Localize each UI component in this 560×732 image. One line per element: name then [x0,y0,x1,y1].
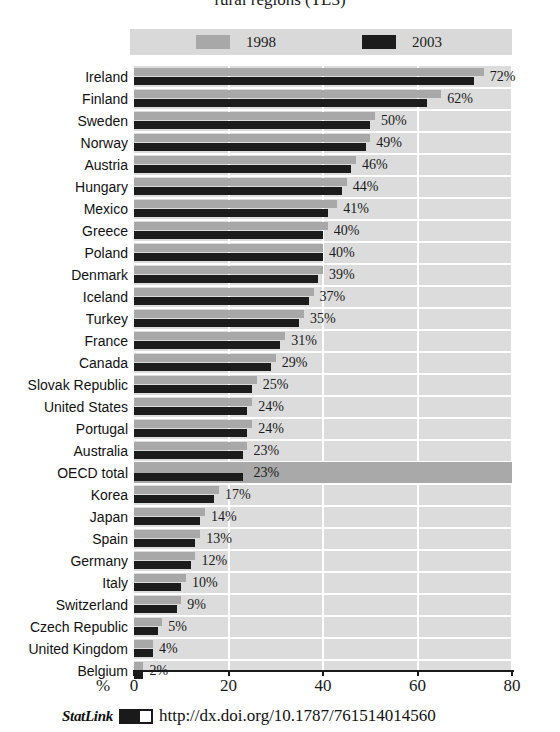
category-axis-labels: IrelandFinlandSwedenNorwayAustriaHungary… [0,66,134,670]
statlink-label: StatLink [62,708,113,725]
bar-group-row: 24% [134,396,512,418]
bar-group-row: 31% [134,330,512,352]
bar-1998 [134,618,162,626]
legend-swatch-2003-icon [362,35,396,49]
bar-2003 [134,429,247,437]
category-label: United States [0,399,128,415]
bar-1998 [134,508,205,516]
category-label: Iceland [0,289,128,305]
bar-value-label: 46% [362,157,388,173]
bar-value-label: 5% [168,619,187,635]
bar-1998 [134,354,276,362]
bar-value-label: 13% [206,531,232,547]
category-label: Finland [0,91,128,107]
bar-group-row: 12% [134,550,512,572]
statlink-url[interactable]: http://dx.doi.org/10.1787/761514014560 [159,706,436,726]
bar-2003 [134,539,195,547]
category-label: Poland [0,245,128,261]
bar-group-row: 17% [134,484,512,506]
bar-1998 [134,244,323,252]
category-label: OECD total [0,465,128,481]
bar-value-label: 25% [263,377,289,393]
legend-label-2003: 2003 [412,34,442,51]
chart-plot-area: 72%62%50%49%46%44%41%40%40%39%37%35%31%2… [134,66,512,670]
bar-value-label: 9% [187,597,206,613]
x-axis-percent-symbol: % [96,676,110,696]
bar-value-label: 31% [291,333,317,349]
bar-group-row: 37% [134,286,512,308]
category-label: Australia [0,443,128,459]
bar-1998 [134,376,257,384]
bar-1998 [134,134,370,142]
bar-group-row: 62% [134,88,512,110]
category-label: Hungary [0,179,128,195]
bar-group-row: 25% [134,374,512,396]
bar-1998 [134,640,153,648]
bar-group-row: 35% [134,308,512,330]
bar-group-row: 9% [134,594,512,616]
x-axis-tick-label: 60 [398,676,438,696]
bar-1998 [134,662,143,670]
x-axis-tick-label: 80 [492,676,532,696]
bar-1998 [134,310,304,318]
statlink-icon [119,709,153,724]
bar-1998 [134,178,347,186]
bar-2003 [134,121,370,129]
category-label: Sweden [0,113,128,129]
bar-2003 [134,451,243,459]
category-label: Denmark [0,267,128,283]
category-label: Korea [0,487,128,503]
category-label: Czech Republic [0,619,128,635]
category-label: Slovak Republic [0,377,128,393]
bar-2003 [134,209,328,217]
bar-2003 [134,385,252,393]
category-label: United Kingdom [0,641,128,657]
bar-group-row: 49% [134,132,512,154]
legend-item-1998: 1998 [196,29,276,55]
bar-1998 [134,288,314,296]
bar-2003 [134,143,366,151]
bar-value-label: 72% [490,69,516,85]
bar-value-label: 40% [334,223,360,239]
bar-2003 [134,341,280,349]
bar-1998 [134,398,252,406]
bar-group-row: 23% [134,462,512,484]
bar-value-label: 37% [320,289,346,305]
x-axis-tick-label: 20 [209,676,249,696]
legend-swatch-1998-icon [196,35,230,49]
bar-1998 [134,464,247,472]
bar-group-row: 5% [134,616,512,638]
bar-1998 [134,332,285,340]
bar-value-label: 12% [201,553,227,569]
bar-2003 [134,297,309,305]
bar-group-row: 46% [134,154,512,176]
category-label: Mexico [0,201,128,217]
bar-group-row: 72% [134,66,512,88]
bar-1998 [134,266,323,274]
bar-group-row: 29% [134,352,512,374]
bar-group-row: 14% [134,506,512,528]
bar-1998 [134,442,247,450]
bar-group-row: 23% [134,440,512,462]
bar-group-row: 39% [134,264,512,286]
bar-2003 [134,473,243,481]
bar-group-row: 40% [134,242,512,264]
bar-2003 [134,649,153,657]
bar-value-label: 39% [329,267,355,283]
category-label: Turkey [0,311,128,327]
bar-2003 [134,253,323,261]
bar-2003 [134,605,177,613]
bar-value-label: 29% [282,355,308,371]
bar-1998 [134,156,356,164]
bar-2003 [134,517,200,525]
bar-1998 [134,596,181,604]
category-label: Japan [0,509,128,525]
bar-value-label: 35% [310,311,336,327]
category-label: Spain [0,531,128,547]
bar-2003 [134,583,181,591]
bar-1998 [134,574,186,582]
category-label: Germany [0,553,128,569]
bar-1998 [134,112,375,120]
bar-2003 [134,231,323,239]
bar-1998 [134,420,252,428]
